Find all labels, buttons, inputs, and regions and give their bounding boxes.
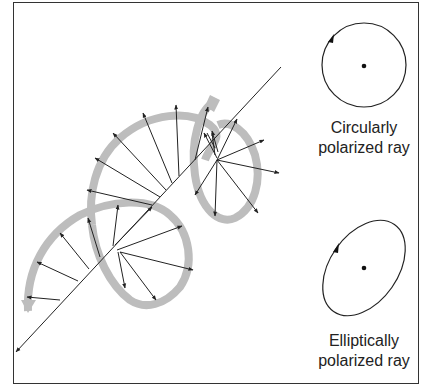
elliptical-caption: Elliptically polarized ray [304, 331, 424, 371]
circular-caption: Circularly polarized ray [304, 118, 424, 158]
helix-direction-arrow-icon [21, 300, 36, 313]
circular-polarization-symbol [322, 23, 406, 107]
rotation-arrow-icon [328, 34, 334, 43]
helix-band [28, 103, 258, 311]
elliptical-polarization-symbol [306, 205, 423, 331]
rotation-arrow-icon [333, 243, 339, 253]
center-dot [362, 64, 367, 69]
elliptical-caption-line2: polarized ray [304, 351, 424, 371]
circular-caption-line2: polarized ray [304, 138, 424, 158]
center-dot [362, 266, 367, 271]
elliptical-caption-line1: Elliptically [304, 331, 424, 351]
circular-caption-line1: Circularly [304, 118, 424, 138]
